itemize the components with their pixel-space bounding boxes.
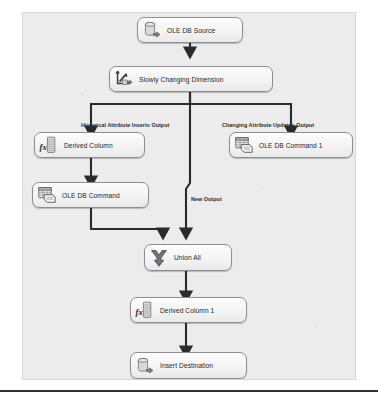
edge-scd-to-union-all bbox=[186, 92, 190, 234]
node-label: OLE DB Command 1 bbox=[259, 142, 323, 149]
edge-label-historical-attribute-inserts-output: Historical Attribute Inserts Output bbox=[81, 123, 169, 128]
database-cylinder-arrow-icon bbox=[142, 20, 162, 40]
node-insert-destination[interactable]: Insert Destination bbox=[130, 352, 247, 379]
svg-text:fx: fx bbox=[40, 142, 48, 152]
node-slowly-changing-dimension[interactable]: Slowly Changing Dimension bbox=[109, 66, 273, 92]
node-derived-column[interactable]: fx Derived Column bbox=[34, 132, 145, 158]
edge-label-changing-attribute-updates-output: Changing Attribute Updates Output bbox=[222, 123, 314, 128]
fx-column-icon: fx bbox=[135, 300, 155, 320]
edge-label-new-output: New Output bbox=[191, 197, 222, 202]
node-derived-column-1[interactable]: fx Derived Column 1 bbox=[130, 297, 247, 323]
node-label: Derived Column 1 bbox=[160, 307, 214, 314]
node-label: OLE DB Command bbox=[62, 192, 120, 199]
svg-text:fx: fx bbox=[136, 307, 144, 317]
node-ole-db-command[interactable]: OLE DB Command bbox=[32, 182, 149, 208]
fx-column-icon: fx bbox=[39, 135, 59, 155]
scd-axis-arrow-icon bbox=[114, 69, 134, 89]
node-label: Derived Column bbox=[64, 142, 113, 149]
node-label: Union All bbox=[174, 254, 201, 261]
node-ole-db-source[interactable]: OLE DB Source bbox=[137, 17, 243, 43]
table-command-icon bbox=[37, 185, 57, 205]
union-funnel-icon bbox=[149, 248, 169, 268]
figure-page: Historical Attribute Inserts Output Chan… bbox=[0, 0, 378, 402]
node-ole-db-command-1[interactable]: OLE DB Command 1 bbox=[229, 132, 353, 158]
data-flow-canvas[interactable]: Historical Attribute Inserts Output Chan… bbox=[22, 12, 356, 380]
node-label: Slowly Changing Dimension bbox=[139, 76, 224, 83]
node-union-all[interactable]: Union All bbox=[144, 244, 232, 271]
page-bottom-rule bbox=[0, 390, 378, 392]
table-command-icon bbox=[234, 135, 254, 155]
node-label: OLE DB Source bbox=[167, 27, 215, 34]
database-cylinder-arrow-icon bbox=[135, 356, 155, 376]
node-label: Insert Destination bbox=[160, 362, 213, 369]
